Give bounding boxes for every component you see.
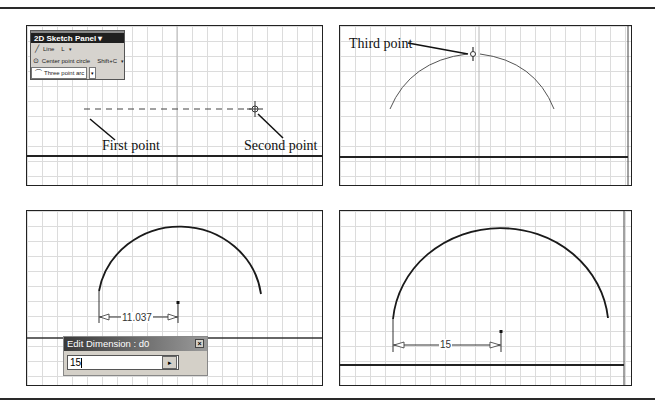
line-icon: ╱: [33, 45, 41, 53]
circle-icon: ⊙: [33, 57, 40, 65]
edit-dimension-dialog: Edit Dimension : d0 × 15 ▸: [63, 336, 208, 376]
palette-title[interactable]: 2D Sketch Panel ▾: [31, 31, 124, 43]
close-icon[interactable]: ×: [195, 339, 204, 348]
top-rule: [0, 7, 655, 9]
dimension-value[interactable]: 15: [439, 339, 452, 350]
callout-second-point: Second point: [244, 138, 318, 154]
arc-icon: ⌒: [34, 69, 42, 77]
dialog-title-text: Edit Dimension : d0: [67, 338, 149, 349]
callout-third-point: Third point: [349, 36, 412, 52]
palette-item-center-point-circle[interactable]: ⊙ Center point circle Shift+C ▾: [31, 55, 124, 67]
sketch-panel-palette: 2D Sketch Panel ▾ ╱ Line L ▾ ⊙ Center po…: [30, 30, 125, 80]
text-caret: [81, 358, 82, 368]
sketch-canvas-4[interactable]: [340, 211, 632, 386]
dimension-value[interactable]: 11.037: [121, 312, 153, 323]
palette-item-label: Center point circle: [42, 55, 90, 67]
dialog-title[interactable]: Edit Dimension : d0 ×: [64, 337, 207, 351]
palette-item-line[interactable]: ╱ Line L ▾: [31, 43, 124, 55]
palette-item-shortcut: Shift+C: [97, 55, 117, 67]
bottom-rule: [0, 398, 655, 400]
chevron-down-icon[interactable]: ▾: [121, 55, 124, 67]
accept-arrow-button[interactable]: ▸: [162, 356, 177, 369]
chevron-down-icon[interactable]: ▾: [89, 67, 96, 79]
panel-step-4: 15: [339, 210, 632, 386]
panel-step-2: Third point: [339, 25, 632, 186]
palette-item-label: Three point arc: [44, 67, 84, 79]
dimension-input-value: 15: [70, 357, 81, 368]
chevron-down-icon[interactable]: ▾: [69, 43, 72, 55]
crosshair-cursor-icon: [247, 101, 263, 117]
point-cursor-icon: [471, 47, 476, 61]
palette-item-three-point-arc[interactable]: ⌒ Three point arc: [31, 67, 87, 79]
palette-item-shortcut: L: [61, 43, 64, 55]
palette-item-label: Line: [43, 43, 54, 55]
callout-first-point: First point: [102, 138, 160, 154]
panel-step-1: 2D Sketch Panel ▾ ╱ Line L ▾ ⊙ Center po…: [26, 25, 323, 186]
panel-step-3: 11.037 Edit Dimension : d0 × 15 ▸: [26, 210, 323, 386]
